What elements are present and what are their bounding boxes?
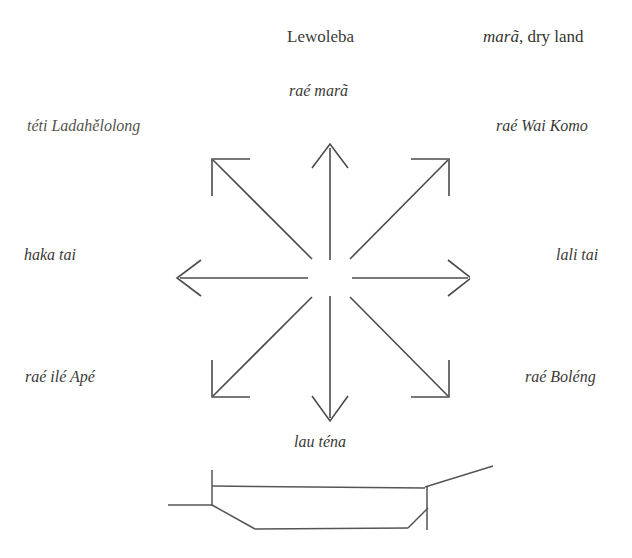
header-right-label-rest: , dry land	[519, 27, 584, 46]
arrow-southwest	[212, 297, 312, 397]
compass-label-top-right: raé Wai Komo	[496, 117, 588, 135]
arrow-north	[312, 144, 348, 260]
boat-outline-drawing	[150, 458, 500, 558]
compass-label-top-left: téti Ladahělolong	[27, 117, 140, 135]
header-right-label: marã, dry land	[483, 28, 584, 47]
header-rule	[24, 60, 626, 63]
compass-label-left: haka tai	[24, 246, 76, 264]
compass-label-bottom-right: raé Boléng	[525, 368, 596, 386]
arrow-east	[352, 260, 470, 296]
compass-label-top: raé marã	[289, 82, 348, 100]
boat-hull-bottom	[255, 528, 408, 529]
diagram-page: Lewoleba marã, dry land raé marã téti La…	[0, 0, 632, 558]
compass-label-bottom-left: raé ilé Apé	[25, 368, 95, 386]
compass-label-bottom: lau téna	[294, 433, 346, 451]
arrow-south	[312, 296, 348, 421]
boat-stern-slope	[408, 508, 428, 528]
arrow-southeast	[350, 297, 449, 397]
compass-label-right: lali tai	[556, 246, 598, 264]
arrow-northeast	[350, 159, 449, 259]
compass-star-diagram	[160, 130, 470, 430]
header-right-label-italic: marã	[483, 27, 519, 46]
arrow-west	[177, 260, 308, 296]
boat-stern-spar	[425, 466, 493, 487]
page-title: Lewoleba	[287, 28, 354, 47]
boat-bow-slope	[212, 505, 255, 529]
boat-gunwale	[212, 486, 425, 488]
arrow-northwest	[212, 159, 312, 259]
